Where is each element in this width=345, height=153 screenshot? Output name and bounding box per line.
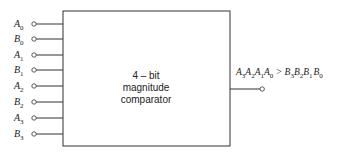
input-A3: A3 [13,112,63,126]
input-label: A0 [13,18,24,32]
input-label: B3 [14,128,24,142]
input-label: A1 [13,49,24,63]
input-B1: B1 [14,64,63,78]
comparator-diagram: 4 – bit magnitude comparator A0 B0 A1 B1… [0,0,345,153]
input-terminal-icon [32,132,36,136]
input-terminal-icon [32,116,36,120]
input-label: A2 [13,80,24,94]
input-A1: A1 [13,49,63,63]
output-A-greater-B: A3A2A1A0>B3B2B1B0 [230,67,323,91]
block-label-line2: magnitude [123,82,170,93]
input-label: A3 [13,112,24,126]
input-terminal-icon [32,84,36,88]
input-terminal-icon [32,53,36,57]
input-terminal-icon [32,100,36,104]
input-B0: B0 [14,33,63,47]
input-A0: A0 [13,18,63,32]
input-B3: B3 [14,128,63,142]
input-label: B1 [14,64,24,78]
block-label-line3: comparator [121,94,172,105]
input-terminal-icon [32,68,36,72]
input-terminal-icon [32,22,36,26]
output-label: A3A2A1A0>B3B2B1B0 [235,67,323,80]
input-label: B2 [14,96,24,110]
block-label-line1: 4 – bit [132,70,159,81]
input-label: B0 [14,33,24,47]
input-A2: A2 [13,80,63,94]
output-terminal-icon [260,87,264,91]
input-B2: B2 [14,96,63,110]
input-terminal-icon [32,37,36,41]
